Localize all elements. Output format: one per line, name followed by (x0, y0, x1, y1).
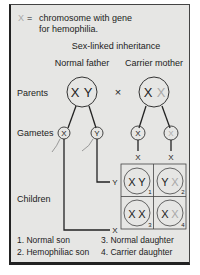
father-chrom-2: Y (84, 85, 93, 100)
row-label-1: Y (112, 178, 118, 187)
child-4-num: 4 (181, 222, 185, 228)
legend-symbol: X (18, 13, 24, 23)
row-label-2: X (112, 226, 118, 235)
diagram-title: Sex-linked inheritance (72, 41, 161, 51)
gametes-row-label: Gametes (17, 128, 54, 138)
mother-chrom-2: X (157, 85, 166, 100)
child-4-chrom-b: X (171, 208, 179, 220)
child-3-chrom-a: X (128, 208, 136, 220)
child-1-chrom-b: Y (138, 176, 146, 188)
child-1-num: 1 (148, 189, 152, 195)
father-label: Normal father (55, 58, 110, 68)
legend-line-1: chromosome with gene (39, 13, 132, 23)
key-item-1: 1. Normal son (17, 235, 70, 245)
child-3-chrom-b: X (138, 208, 146, 220)
child-2-num: 2 (181, 189, 185, 195)
parents-row-label: Parents (17, 88, 49, 98)
inheritance-diagram: X = chromosome with gene for hemophilia.… (0, 0, 200, 275)
key-item-2: 2. Hemophiliac son (17, 247, 90, 257)
child-1-chrom-a: X (128, 176, 136, 188)
legend-line-2: for hemophilia. (39, 24, 98, 34)
col-label-1: X (135, 153, 141, 162)
child-3-num: 3 (148, 222, 152, 228)
mother-chrom-1: X (144, 85, 153, 100)
col-label-2: X (168, 153, 174, 162)
legend-equals: = (27, 13, 32, 23)
child-2-chrom-b: X (171, 176, 179, 188)
key-item-3: 3. Normal daughter (101, 235, 174, 245)
key-item-4: 4. Carrier daughter (101, 247, 173, 257)
cross-symbol: × (115, 86, 121, 98)
children-row-label: Children (17, 194, 51, 204)
mother-label: Carrier mother (125, 58, 183, 68)
sperm-x-label: X (61, 129, 67, 138)
child-4-chrom-a: X (161, 208, 169, 220)
child-2-chrom-a: Y (161, 176, 169, 188)
father-chrom-1: X (71, 85, 80, 100)
egg-x-hemophilia-label: X (168, 129, 174, 138)
egg-x-normal-label: X (135, 129, 141, 138)
sperm-y-label: Y (94, 129, 100, 138)
